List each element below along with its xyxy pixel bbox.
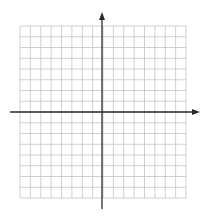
- y-axis-arrow-icon: [99, 12, 105, 20]
- x-axis-arrow-icon: [192, 109, 200, 115]
- axes: [10, 12, 200, 209]
- coordinate-plane: [0, 0, 207, 220]
